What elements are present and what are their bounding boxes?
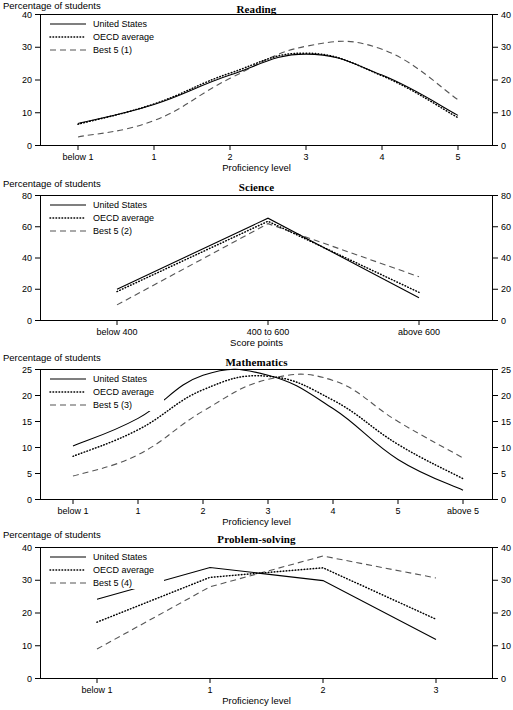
y-tick-label: 5	[27, 469, 32, 479]
x-tick-label: 3	[433, 685, 438, 695]
y-tick-label: 10	[22, 108, 32, 118]
x-tick-label: above 600	[398, 327, 440, 337]
y-tick-label: 40	[22, 10, 32, 20]
x-tick-label: 3	[265, 506, 270, 516]
y-tick-label: 15	[22, 417, 32, 427]
y-tick-label-right: 30	[501, 575, 511, 585]
y-ticks-left: 0 10 20 30 40	[22, 10, 41, 151]
y-tick-label: 40	[22, 543, 32, 553]
series-line-oecd	[78, 53, 458, 124]
plot-mathematics: 0 5 10 15 20 25 0 5 10 15 20 25	[0, 352, 513, 530]
y-ticks-right: 0 5 10 15 20 25	[493, 365, 512, 505]
x-tick-label: 2	[320, 685, 325, 695]
x-tick-label: 5	[395, 506, 400, 516]
y-ticks-left: 0 20 40 60 80	[22, 191, 41, 326]
y-tick-label: 10	[22, 641, 32, 651]
y-tick-label-right: 25	[501, 365, 511, 375]
y-tick-label-right: 5	[501, 469, 506, 479]
y-tick-label: 0	[27, 495, 32, 505]
x-axis-label-science: Score points	[0, 337, 513, 348]
x-tick-label: 1	[207, 685, 212, 695]
y-tick-label-right: 40	[501, 10, 511, 20]
panel-problem-solving: Percentage of students Problem-solving 0…	[0, 529, 513, 710]
x-ticks: below 1 1 2 3	[81, 679, 438, 696]
y-tick-label-right: 20	[501, 391, 511, 401]
legend-mathematics: United States OECD average Best 5 (3)	[44, 372, 164, 411]
x-tick-label: 5	[455, 152, 460, 162]
x-ticks: below 400 400 to 600 above 600	[96, 321, 440, 338]
y-tick-label: 0	[27, 674, 32, 684]
legend-label-oecd: OECD average	[93, 565, 154, 575]
y-tick-label-right: 80	[501, 191, 511, 201]
x-tick-label: 2	[227, 152, 232, 162]
y-tick-label-right: 0	[501, 674, 506, 684]
x-axis-label-problem-solving: Proficiency level	[0, 695, 513, 706]
y-tick-label-right: 10	[501, 443, 511, 453]
series-line-us	[78, 54, 458, 123]
x-tick-label: below 1	[62, 152, 93, 162]
y-tick-label: 20	[22, 608, 32, 618]
x-ticks: below 1 1 2 3 4 5 above 5	[57, 500, 479, 517]
y-tick-label-right: 0	[501, 495, 506, 505]
legend-label-us: United States	[93, 374, 148, 384]
y-ticks-right: 0 10 20 30 40	[493, 543, 512, 684]
x-tick-label: 4	[330, 506, 335, 516]
y-tick-label: 20	[22, 75, 32, 85]
legend-label-us: United States	[93, 19, 148, 29]
x-tick-label: below 1	[57, 506, 88, 516]
legend-problem-solving: United States OECD average Best 5 (4)	[44, 550, 164, 589]
y-tick-label: 25	[22, 365, 32, 375]
y-ticks-right: 0 20 40 60 80	[493, 191, 512, 326]
y-tick-label-right: 40	[501, 543, 511, 553]
x-tick-label: above 5	[447, 506, 479, 516]
y-tick-label: 40	[22, 253, 32, 263]
panel-mathematics: Percentage of students Mathematics 0 5 1…	[0, 352, 513, 530]
y-tick-label: 20	[22, 284, 32, 294]
plot-reading: 0 10 20 30 40 0 10 20 30 40	[0, 0, 513, 175]
panel-science: Percentage of students Science 0 20 40 6…	[0, 178, 513, 350]
x-tick-label: 4	[379, 152, 384, 162]
y-tick-label-right: 0	[501, 316, 506, 326]
y-tick-label-right: 60	[501, 222, 511, 232]
legend-reading: United States OECD average Best 5 (1)	[44, 17, 164, 56]
plot-problem-solving: 0 10 20 30 40 0 10 20 30 40	[0, 529, 513, 710]
y-ticks-left: 0 5 10 15 20 25	[22, 365, 41, 505]
y-tick-label-right: 30	[501, 42, 511, 52]
x-axis-label-reading: Proficiency level	[0, 162, 513, 173]
y-tick-label-right: 10	[501, 641, 511, 651]
legend-label-best5: Best 5 (4)	[93, 578, 132, 588]
x-tick-label: 400 to 600	[247, 327, 290, 337]
legend-label-us: United States	[93, 552, 148, 562]
legend-label-best5: Best 5 (2)	[93, 226, 132, 236]
y-tick-label-right: 20	[501, 608, 511, 618]
y-tick-label-right: 0	[501, 141, 506, 151]
y-tick-label: 60	[22, 222, 32, 232]
x-axis-label-mathematics: Proficiency level	[0, 516, 513, 527]
x-tick-label: 3	[303, 152, 308, 162]
y-tick-label-right: 20	[501, 75, 511, 85]
y-tick-label-right: 10	[501, 108, 511, 118]
legend-label-best5: Best 5 (3)	[93, 400, 132, 410]
legend-label-oecd: OECD average	[93, 387, 154, 397]
legend-label-oecd: OECD average	[93, 32, 154, 42]
legend-label-oecd: OECD average	[93, 213, 154, 223]
y-tick-label: 10	[22, 443, 32, 453]
y-tick-label: 20	[22, 391, 32, 401]
y-tick-label-right: 15	[501, 417, 511, 427]
x-tick-label: 1	[135, 506, 140, 516]
y-tick-label-right: 40	[501, 253, 511, 263]
legend-label-us: United States	[93, 200, 148, 210]
panel-reading: Percentage of students Reading 0 10 20 3…	[0, 0, 513, 175]
x-ticks: below 1 1 2 3 4 5	[62, 146, 460, 163]
y-ticks-left: 0 10 20 30 40	[22, 543, 41, 684]
legend-label-best5: Best 5 (1)	[93, 45, 132, 55]
legend-science: United States OECD average Best 5 (2)	[44, 198, 164, 237]
plot-science: 0 20 40 60 80 0 20 40 60 80	[0, 178, 513, 350]
y-tick-label: 80	[22, 191, 32, 201]
y-tick-label-right: 20	[501, 284, 511, 294]
x-tick-label: 1	[151, 152, 156, 162]
y-ticks-right: 0 10 20 30 40	[493, 10, 512, 151]
x-tick-label: below 400	[96, 327, 137, 337]
y-tick-label: 30	[22, 575, 32, 585]
x-tick-label: below 1	[81, 685, 112, 695]
